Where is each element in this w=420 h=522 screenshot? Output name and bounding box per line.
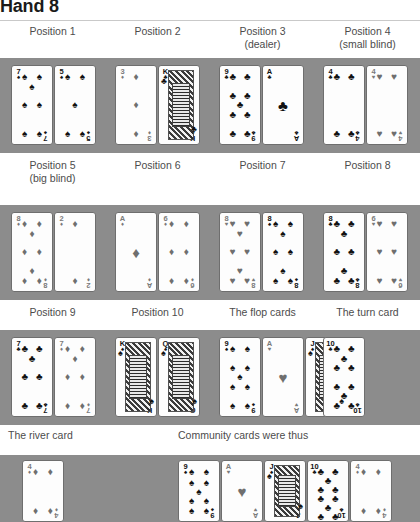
card-suit-pip: ♣ [161, 76, 167, 86]
card-suit-pip: ♠ [288, 219, 293, 228]
card-pips: ♣♣♣♣ [333, 72, 355, 138]
card-pips: ♦♦♦ [125, 72, 147, 138]
card-suit-pip: ♠ [37, 72, 42, 81]
label-position-8: Position 8 [315, 157, 420, 185]
hand-summary-page: Hand 8 Position 1 Position 2 Position 3 … [0, 0, 420, 522]
card-suit-pip: ♣ [332, 512, 339, 521]
card-3d: 3♦3♦♦♦♦ [115, 65, 157, 145]
card-pips: ♥♥♥♥ [376, 72, 398, 138]
card-suit-pip: ♠ [245, 344, 250, 353]
card-suit-pip: ♦ [72, 219, 77, 228]
card-suit-pip: ♥ [391, 72, 397, 81]
page-title: Hand 8 [0, 0, 420, 17]
card-suit-pip: ♣ [332, 494, 339, 503]
card-suit-pip: ♠ [22, 100, 27, 109]
card-suit-pip: ♠ [230, 363, 235, 372]
card-suit-pip: ♠ [149, 396, 154, 406]
card-suit-pip: ♣ [325, 476, 332, 485]
card-suit-pip: ♣ [348, 382, 355, 391]
card-js: J♠J♠♠♠ [264, 460, 306, 522]
card-pips: ♦♦♦♦♦♦♦♦ [21, 219, 43, 285]
card-suit-pip: ♣ [21, 401, 28, 410]
card-suit-pip: ♠ [189, 506, 194, 515]
title-divider [0, 20, 420, 21]
card-suit-pip: ♦ [184, 276, 189, 285]
card-suit-pip: ♣ [317, 467, 324, 476]
card-suit-pip: ♣ [348, 276, 355, 285]
card-suit-pip: ♠ [80, 129, 85, 138]
card-suit-pip: ♣ [348, 363, 355, 372]
card-suit-pip: ♦ [169, 219, 174, 228]
label-position-3: Position 3 (dealer) [210, 23, 315, 51]
card-suit-pip: ♣ [341, 354, 348, 363]
card-suit-pip: ♣ [36, 344, 43, 353]
card-4h: 4♥4♥♥♥♥♥ [366, 65, 408, 145]
card-suit-pip: ♠ [22, 129, 27, 138]
court-card-art [168, 342, 194, 412]
card-suit-pip: ♥ [391, 276, 397, 285]
card-suit-pip: ♦ [376, 467, 381, 476]
card-suit-pip: ♠ [37, 100, 42, 109]
card-pips: ♠♠♠♠♠♠♠♠♠ [229, 344, 251, 410]
card-pips: ♣♣♣♣♣♣♣♣♣♣ [317, 467, 339, 515]
card-8s: 8♠8♠♠♠♠♠♠♠♠♠ [262, 212, 304, 292]
card-4d: 4♦4♦♦♦♦♦ [350, 460, 392, 522]
label-position-10: Position 10 [105, 304, 210, 319]
card-suit-pip: ♥ [391, 129, 397, 138]
card-suit-pip: ♠ [339, 396, 344, 406]
card-suit-pip: ♦ [80, 372, 85, 381]
card-suit-pip: ♠ [204, 496, 209, 505]
card-suit-pip: ♣ [237, 100, 244, 109]
card-suit-pip: ♣ [229, 72, 236, 81]
card-suit-pip: ♣ [36, 372, 43, 381]
card-pips: ♦♦♦♦♦♦ [168, 219, 190, 285]
card-pips: ♣♣♣♣♣♣♣♣♣ [229, 72, 251, 138]
label-river-card: The river card [8, 429, 73, 442]
card-6d: 6♦6♦♦♦♦♦♦♦ [158, 212, 200, 292]
card-kc: K♣K♣♣♣ [158, 65, 200, 145]
card-suit-pip: ♠ [118, 348, 123, 358]
card-suit-pip: ♠ [288, 276, 293, 285]
card-pips: ♥♥♥♥♥♥ [376, 219, 398, 285]
card-suit-pip: ♦ [361, 506, 366, 515]
card-suit-pip: ♣ [229, 129, 236, 138]
card-suit-pip: ♠ [245, 363, 250, 372]
card-suit-pip: ♦ [22, 219, 27, 228]
row-2-labels: Position 5 (big blind) Position 6 Positi… [0, 157, 420, 185]
card-suit-pip: ♠ [280, 229, 285, 238]
card-suit-pip: ♣ [317, 512, 324, 521]
card-suit-pip: ♠ [80, 72, 85, 81]
card-suit-pip: ♣ [244, 72, 251, 81]
card-suit-pip: ♦ [72, 276, 77, 285]
card-suit-pip: ♠ [189, 467, 194, 476]
card-pips: ♦♦♦♦ [32, 467, 54, 515]
card-suit-pip: ♣ [229, 91, 236, 100]
card-suit-pip: ♦ [133, 100, 138, 109]
card-suit-pip: ♣ [348, 129, 355, 138]
card-band-row-3: 7♣7♣♣♣♣♣♣♣♣7♦7♦♦♦♦♦♦♦♦K♠K♠♠♠Q♠Q♠♠♠9♠9♠♠♠… [0, 330, 420, 425]
court-card-art [125, 342, 151, 412]
card-suit-pip: ♣ [333, 72, 340, 81]
card-suit-pip: ♠ [65, 129, 70, 138]
card-suit-pip: ♠ [161, 348, 166, 358]
card-ah: A♥A♥♥ [221, 460, 263, 522]
card-suit-pip: ♥ [244, 247, 250, 256]
card-suit-pip: ♥ [230, 247, 236, 256]
card-band-row-2: 8♦8♦♦♦♦♦♦♦♦♦2♦2♦♦♦A♦A♦♦6♦6♦♦♦♦♦♦♦8♥8♥♥♥♥… [0, 205, 420, 300]
card-suit-pip: ♦ [376, 506, 381, 515]
card-suit-pip: ♣ [244, 110, 251, 119]
card-suit-pip: ♣ [333, 344, 340, 353]
card-suit-pip: ♠ [245, 382, 250, 391]
card-suit-pip: ♥ [237, 229, 243, 238]
card-suit-pip: ♠ [230, 344, 235, 353]
card-suit-pip: ♦ [65, 344, 70, 353]
card-suit-pip: ♠ [22, 72, 27, 81]
row-3-labels: Position 9 Position 10 The flop cards Th… [0, 304, 420, 319]
card-band-row-4: 4♦4♦♦♦♦♦9♠9♠♠♠♠♠♠♠♠♠♠A♥A♥♥J♠J♠♠♠10♣10♣♣♣… [0, 455, 420, 522]
label-position-2: Position 2 [105, 23, 210, 51]
card-ad: A♦A♦♦ [115, 212, 157, 292]
card-suit-pip: ♦ [29, 266, 34, 275]
card-suit-pip: ♦ [65, 401, 70, 410]
card-suit-pip: ♣ [348, 344, 355, 353]
label-position-7: Position 7 [210, 157, 315, 185]
